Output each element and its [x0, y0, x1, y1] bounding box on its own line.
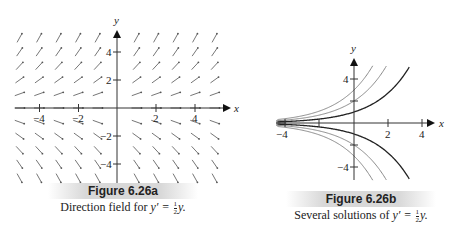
slope-segment — [191, 133, 199, 139]
arrow-tip — [179, 138, 181, 140]
arrow-tip — [216, 181, 218, 183]
slope-segment — [75, 160, 81, 168]
slope-segment — [191, 77, 199, 83]
arrow-tip — [80, 33, 82, 35]
arrow-tip — [138, 47, 140, 49]
arrow-tip — [81, 61, 83, 63]
solution-curves-plot: −4 2 4 4 −4 x y — [276, 42, 444, 180]
slope-segment — [153, 146, 160, 153]
caption-text: Several solutions of — [294, 208, 392, 222]
arrow-tip — [62, 91, 64, 93]
slope-segment — [75, 48, 81, 56]
slope-segment — [34, 92, 43, 95]
arrow-tip — [158, 47, 160, 49]
arrow-tip — [199, 123, 201, 125]
slope-segment — [54, 77, 62, 83]
arrow-tip — [179, 91, 181, 93]
slope-segment — [17, 160, 23, 168]
arrow-tip — [21, 181, 23, 183]
slope-segment — [15, 77, 23, 83]
arrow-tip — [197, 33, 199, 35]
arrow-tip — [21, 167, 23, 169]
arrow-tip — [198, 138, 200, 140]
arrow-tip — [42, 138, 44, 140]
slope-segment — [154, 174, 159, 183]
arrow-tip — [81, 76, 83, 78]
arrow-tip — [23, 138, 25, 140]
caption-equation-rhs: y. — [420, 208, 428, 222]
x-tick-label: 4 — [419, 128, 425, 140]
slope-segment — [133, 146, 140, 153]
slope-segment — [210, 133, 218, 139]
slope-segment — [17, 174, 22, 183]
x-tick-label: −2 — [72, 112, 84, 124]
fraction: 12 — [416, 209, 420, 224]
fraction: 12 — [174, 201, 178, 216]
arrow-tip — [218, 76, 220, 78]
arrow-tip — [177, 33, 179, 35]
arrow-tip — [21, 33, 23, 35]
arrow-tip — [140, 76, 142, 78]
slope-segment — [15, 133, 23, 139]
slope-segment — [56, 174, 61, 183]
arrow-tip — [199, 91, 201, 93]
arrow-tip — [138, 33, 140, 35]
slope-segment — [134, 34, 139, 43]
slope-segment — [94, 62, 101, 69]
slope-segment — [95, 34, 100, 43]
slope-segment — [152, 77, 160, 83]
slope-segment — [134, 160, 140, 168]
slope-segment — [171, 120, 180, 123]
arrow-tip — [159, 153, 161, 155]
y-tick-label: 4 — [343, 73, 349, 85]
slope-segment — [152, 133, 160, 139]
figure-b-title: Figure 6.26b — [286, 191, 436, 207]
slope-segment — [190, 92, 199, 95]
slope-segment — [193, 34, 198, 43]
slope-segment — [55, 62, 62, 69]
arrow-tip — [139, 153, 141, 155]
slope-segment — [211, 146, 218, 153]
caption-equation: y′ = — [393, 208, 415, 222]
slope-segment — [35, 77, 43, 83]
solution-curve — [278, 125, 387, 180]
slope-segment — [93, 77, 101, 83]
solution-curve — [278, 66, 387, 121]
arrow-tip — [101, 76, 103, 78]
arrow-tip — [197, 47, 199, 49]
arrow-tip — [197, 167, 199, 169]
x-axis-label: x — [438, 117, 444, 129]
slope-segment — [212, 48, 218, 56]
caption-equation-rhs: y. — [178, 200, 186, 214]
slope-segment — [153, 62, 160, 69]
arrow-tip — [140, 91, 142, 93]
arrow-tip — [198, 153, 200, 155]
slope-segment — [74, 77, 82, 83]
slope-segment — [132, 92, 141, 95]
slope-segment — [56, 160, 62, 168]
slope-segment — [16, 146, 23, 153]
slope-segment — [17, 34, 22, 43]
slope-segment — [210, 77, 218, 83]
slope-segment — [37, 34, 42, 43]
arrow-tip — [216, 33, 218, 35]
arrow-tip — [217, 153, 219, 155]
x-tick-label: 2 — [153, 112, 159, 124]
solution-curve — [278, 126, 373, 180]
slope-segment — [134, 174, 139, 183]
slope-segment — [54, 92, 63, 95]
caption-equation: y′ = — [151, 200, 173, 214]
slope-segment — [95, 174, 100, 183]
arrow-tip — [178, 153, 180, 155]
arrow-tip — [43, 91, 45, 93]
arrow-tip — [60, 33, 62, 35]
slope-segment — [132, 77, 140, 83]
slope-segment — [193, 174, 198, 183]
arrow-tip — [80, 47, 82, 49]
slope-segment — [15, 120, 24, 123]
arrow-tip — [198, 76, 200, 78]
slope-segment — [211, 62, 218, 69]
slope-segment — [212, 174, 217, 183]
slope-segment — [37, 174, 42, 183]
arrow-tip — [216, 47, 218, 49]
